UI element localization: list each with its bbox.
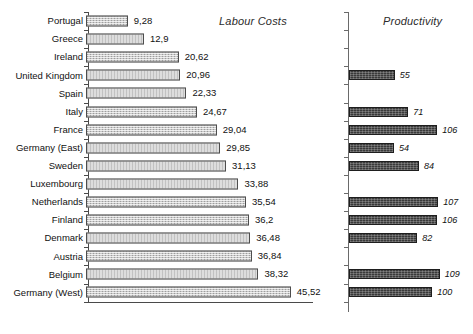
labour-bar-track: 35,54 bbox=[86, 193, 336, 211]
productivity-bar-track: 55 bbox=[349, 66, 473, 84]
labour-row: Luxembourg33,88 bbox=[0, 175, 336, 193]
labour-bar bbox=[86, 124, 217, 135]
labour-category-tick bbox=[84, 84, 88, 85]
labour-bar-track: 36,2 bbox=[86, 211, 336, 229]
labour-value-label: 33,88 bbox=[244, 179, 268, 189]
labour-value-label: 35,54 bbox=[252, 197, 276, 207]
productivity-value-label: 100 bbox=[437, 288, 452, 297]
labour-row: Denmark36,48 bbox=[0, 229, 336, 247]
labour-bar-track: 36,48 bbox=[86, 229, 336, 247]
labour-row: Portugal9,28 bbox=[0, 12, 336, 30]
category-label: Ireland bbox=[0, 52, 86, 62]
labour-category-tick bbox=[84, 30, 88, 31]
labour-value-label: 24,67 bbox=[203, 107, 227, 117]
productivity-category-tick bbox=[344, 30, 348, 31]
labour-bar-track: 45,52 bbox=[86, 283, 336, 301]
productivity-bar bbox=[349, 125, 437, 135]
labour-value-label: 20,62 bbox=[185, 52, 209, 62]
productivity-row: 107 bbox=[336, 193, 473, 211]
labour-value-label: 22,33 bbox=[192, 89, 216, 99]
productivity-bar-track: 109 bbox=[349, 265, 473, 283]
labour-bar bbox=[86, 287, 291, 298]
productivity-row bbox=[336, 247, 473, 265]
labour-category-tick bbox=[84, 211, 88, 212]
productivity-value-label: 55 bbox=[400, 71, 410, 80]
productivity-bar bbox=[349, 143, 394, 153]
labour-bar bbox=[86, 160, 226, 171]
productivity-bar-track bbox=[349, 48, 473, 66]
productivity-row: 82 bbox=[336, 229, 473, 247]
labour-value-label: 38,32 bbox=[264, 270, 288, 280]
labour-category-tick bbox=[84, 229, 88, 230]
labour-bar bbox=[86, 215, 249, 226]
productivity-bar-track bbox=[349, 247, 473, 265]
productivity-row bbox=[336, 12, 473, 30]
productivity-category-tick bbox=[344, 121, 348, 122]
productivity-value-label: 109 bbox=[445, 270, 460, 279]
labour-category-tick bbox=[84, 265, 88, 266]
labour-bar-track: 29,85 bbox=[86, 139, 336, 157]
labour-value-label: 20,96 bbox=[186, 71, 210, 81]
labour-bar bbox=[86, 142, 220, 153]
productivity-bar-track bbox=[349, 12, 473, 30]
productivity-value-label: 82 bbox=[422, 234, 432, 243]
productivity-bar-track: 106 bbox=[349, 121, 473, 139]
labour-row: United Kingdom20,96 bbox=[0, 66, 336, 84]
labour-value-label: 12,9 bbox=[150, 34, 169, 44]
productivity-row bbox=[336, 84, 473, 102]
productivity-bar bbox=[349, 269, 440, 279]
labour-row: Spain22,33 bbox=[0, 84, 336, 102]
productivity-bar-track: 106 bbox=[349, 211, 473, 229]
labour-bar-track: 20,62 bbox=[86, 48, 336, 66]
category-label: Luxembourg bbox=[0, 179, 86, 189]
labour-row: Austria36,84 bbox=[0, 247, 336, 265]
labour-value-label: 31,13 bbox=[232, 161, 256, 171]
labour-bar bbox=[86, 88, 186, 99]
productivity-category-tick bbox=[344, 139, 348, 140]
productivity-row-group: 5571106548410710682109100 bbox=[336, 12, 473, 302]
labour-row: Greece12,9 bbox=[0, 30, 336, 48]
category-label: Sweden bbox=[0, 161, 86, 171]
productivity-bar bbox=[349, 70, 395, 80]
productivity-bar-track: 84 bbox=[349, 157, 473, 175]
labour-bar bbox=[86, 196, 246, 207]
labour-row: Sweden31,13 bbox=[0, 157, 336, 175]
labour-bar bbox=[86, 52, 179, 63]
productivity-bar bbox=[349, 197, 438, 207]
labour-row: France29,04 bbox=[0, 121, 336, 139]
labour-bar bbox=[86, 251, 252, 262]
labour-row: Netherlands35,54 bbox=[0, 193, 336, 211]
labour-value-label: 29,85 bbox=[226, 143, 250, 153]
labour-row: Germany (West)45,52 bbox=[0, 283, 336, 301]
productivity-value-label: 106 bbox=[442, 216, 457, 225]
productivity-value-label: 106 bbox=[442, 125, 457, 134]
productivity-category-tick bbox=[344, 175, 348, 176]
productivity-bar bbox=[349, 107, 408, 117]
labour-row: Ireland20,62 bbox=[0, 48, 336, 66]
labour-bar bbox=[86, 70, 180, 81]
labour-bar bbox=[86, 106, 197, 117]
labour-category-tick bbox=[84, 193, 88, 194]
labour-bar-track: 29,04 bbox=[86, 121, 336, 139]
productivity-bar-track: 100 bbox=[349, 283, 473, 301]
category-label: Belgium bbox=[0, 270, 86, 280]
labour-category-tick bbox=[84, 247, 88, 248]
category-label: Germany (East) bbox=[0, 143, 86, 153]
productivity-plot: 5571106548410710682109100 bbox=[336, 12, 473, 302]
productivity-bar-track bbox=[349, 175, 473, 193]
labour-bar-track: 33,88 bbox=[86, 175, 336, 193]
category-label: Italy bbox=[0, 107, 86, 117]
labour-category-tick bbox=[84, 12, 88, 13]
productivity-category-tick bbox=[344, 84, 348, 85]
labour-row: Germany (East)29,85 bbox=[0, 139, 336, 157]
category-label: Austria bbox=[0, 252, 86, 262]
chart-canvas: Labour Costs Productivity Portugal9,28Gr… bbox=[0, 0, 473, 334]
productivity-bar-track bbox=[349, 30, 473, 48]
productivity-category-tick bbox=[344, 265, 348, 266]
productivity-row: 54 bbox=[336, 139, 473, 157]
productivity-row: 55 bbox=[336, 66, 473, 84]
labour-category-tick bbox=[84, 284, 88, 285]
productivity-bar-track: 71 bbox=[349, 102, 473, 120]
labour-value-label: 36,2 bbox=[255, 215, 274, 225]
productivity-bar bbox=[349, 233, 417, 243]
